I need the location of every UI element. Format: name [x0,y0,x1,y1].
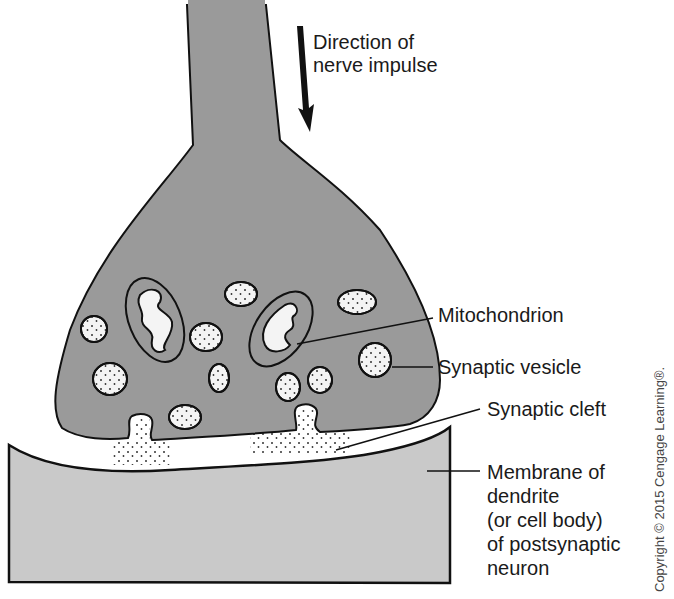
label-mitochondrion: Mitochondrion [438,304,564,327]
label-direction: Direction of nerve impulse [313,31,438,77]
label-membrane: Membrane of dendrite (or cell body) of p… [487,460,620,580]
direction-arrow-icon [297,26,314,132]
copyright-notice: Copyright © 2015 Cengage Learning®. [652,367,667,592]
label-membrane-line3: (or cell body) [487,508,620,532]
label-direction-line1: Direction of [313,31,438,54]
label-membrane-line1: Membrane of [487,460,620,484]
label-membrane-line5: neuron [487,556,620,580]
label-direction-line2: nerve impulse [313,54,438,77]
postsynaptic-membrane [9,427,450,583]
label-synaptic-cleft: Synaptic cleft [487,398,606,421]
label-synaptic-vesicle: Synaptic vesicle [438,356,581,379]
label-membrane-line4: of postsynaptic [487,532,620,556]
label-membrane-line2: dendrite [487,484,620,508]
